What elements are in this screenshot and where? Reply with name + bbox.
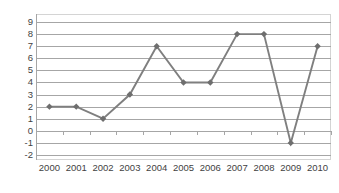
data-point-marker — [46, 103, 52, 109]
data-point-marker — [73, 103, 79, 109]
data-point-marker — [314, 43, 320, 49]
line-chart: 9876543210-1-2 2000200120022003200420052… — [0, 0, 339, 193]
series-markers — [46, 31, 321, 146]
data-point-marker — [288, 140, 294, 146]
data-series-layer — [0, 0, 339, 193]
data-point-marker — [261, 31, 267, 37]
series-line — [49, 34, 317, 143]
